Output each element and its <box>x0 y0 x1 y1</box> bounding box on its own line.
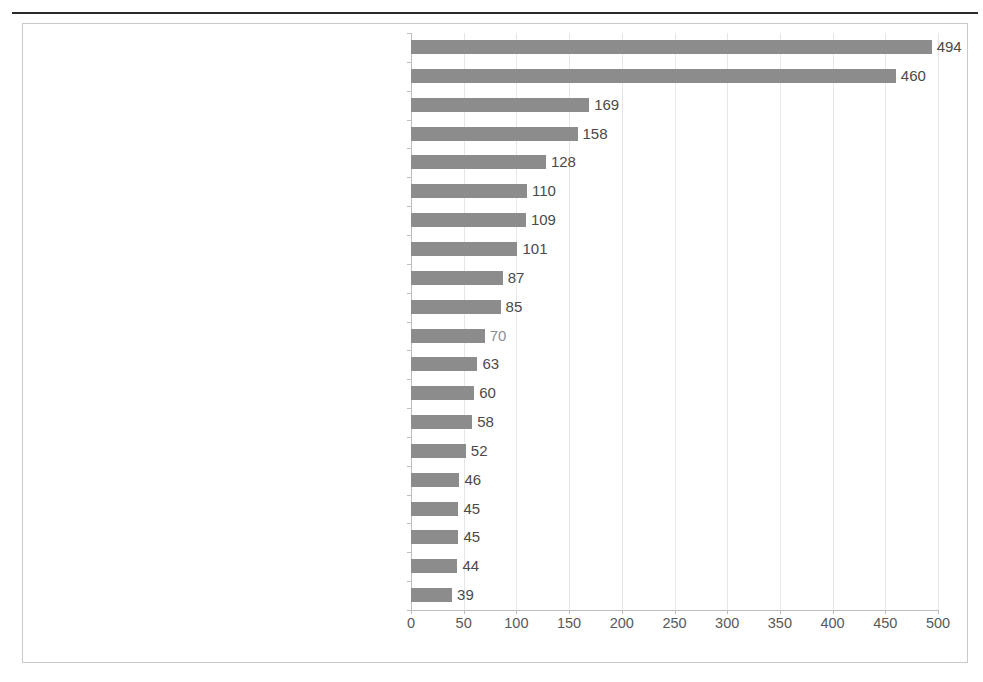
bar-row: International Journal of Production Econ… <box>411 91 938 120</box>
bar-value-label: 128 <box>546 148 576 177</box>
x-tick-label: 300 <box>715 615 739 631</box>
bar[interactable] <box>411 415 472 429</box>
y-tick-mark <box>407 350 411 351</box>
x-tick-mark-300 <box>727 610 728 614</box>
bar-value-label: 87 <box>503 264 525 293</box>
x-tick-label: 0 <box>407 615 415 631</box>
bar-value-label: 60 <box>474 379 496 408</box>
bar-row: Information Sciences63 <box>411 350 938 379</box>
bar-value-label: 45 <box>458 523 480 552</box>
bar-row: Applied Mathematics and Computation45 <box>411 523 938 552</box>
bar[interactable] <box>411 271 503 285</box>
y-tick-mark <box>407 408 411 409</box>
chart-frame: European Journal of Operational Research… <box>22 23 968 663</box>
bar-row: Omega109 <box>411 206 938 235</box>
x-tick-label: 400 <box>820 615 844 631</box>
bar[interactable] <box>411 530 458 544</box>
bar[interactable] <box>411 98 589 112</box>
y-tick-mark <box>407 552 411 553</box>
y-tick-mark <box>407 379 411 380</box>
bar[interactable] <box>411 155 546 169</box>
bar-row: Value in Health60 <box>411 379 938 408</box>
y-tick-mark <box>407 581 411 582</box>
bar-value-label: 39 <box>452 581 474 610</box>
bar-row: Energy Policy58 <box>411 408 938 437</box>
y-tick-mark <box>407 610 411 611</box>
bar-value-label: 70 <box>485 322 507 351</box>
y-tick-mark <box>407 33 411 34</box>
y-tick-mark <box>407 293 411 294</box>
bar-value-label: 101 <box>517 235 547 264</box>
bar-row: Computers & Industrial Engineering158 <box>411 120 938 149</box>
top-horizontal-rule <box>12 12 978 14</box>
bar-row: Applied Soft Computing44 <box>411 552 938 581</box>
y-tick-mark <box>407 322 411 323</box>
bar-row: European Journal of Operational Research… <box>411 33 938 62</box>
x-tick-label: 450 <box>873 615 897 631</box>
bar-row: Expert Systems with Applications460 <box>411 62 938 91</box>
bar-value-label: 110 <box>527 177 556 206</box>
y-tick-mark <box>407 495 411 496</box>
x-tick-mark-100 <box>516 610 517 614</box>
x-tick-mark-450 <box>885 610 886 614</box>
x-tick-label: 200 <box>610 615 634 631</box>
bar[interactable] <box>411 300 501 314</box>
bar[interactable] <box>411 40 932 54</box>
x-tick-mark-250 <box>675 610 676 614</box>
x-tick-mark-200 <box>622 610 623 614</box>
y-tick-mark <box>407 91 411 92</box>
bar[interactable] <box>411 357 477 371</box>
x-tick-mark-150 <box>569 610 570 614</box>
x-tick-label: 500 <box>926 615 950 631</box>
bar[interactable] <box>411 69 896 83</box>
y-tick-mark <box>407 235 411 236</box>
bar[interactable] <box>411 184 527 198</box>
chart-inner: European Journal of Operational Research… <box>23 24 967 662</box>
x-tick-mark-400 <box>833 610 834 614</box>
y-tick-mark <box>407 466 411 467</box>
x-tick-label: 250 <box>662 615 686 631</box>
bar[interactable] <box>411 386 474 400</box>
bar-value-label: 169 <box>589 91 619 120</box>
x-tick-mark-350 <box>780 610 781 614</box>
bar-row: Fuzzy Sets and Systems85 <box>411 293 938 322</box>
bar-row: Socio-Economic Planning Sciences70 <box>411 322 938 351</box>
plot-area: European Journal of Operational Research… <box>411 33 938 610</box>
x-tick-label: 150 <box>557 615 581 631</box>
bar[interactable] <box>411 329 485 343</box>
bar[interactable] <box>411 127 578 141</box>
bar-row: Environmental Modelling & Software45 <box>411 495 938 524</box>
bar-row: Reliability Engineering & System Safety4… <box>411 466 938 495</box>
y-tick-mark <box>407 437 411 438</box>
y-tick-mark <box>407 148 411 149</box>
bar-row: Mathematical and Computer Modelling128 <box>411 148 938 177</box>
y-tick-mark <box>407 206 411 207</box>
bar-value-label: 63 <box>477 350 499 379</box>
bar-value-label: 460 <box>896 62 926 91</box>
bar[interactable] <box>411 588 452 602</box>
bar[interactable] <box>411 242 517 256</box>
bar-row: Journal of Environmental Management87 <box>411 264 938 293</box>
bar-row: Decision Support Systems101 <box>411 235 938 264</box>
x-tick-mark-50 <box>464 610 465 614</box>
bar-value-label: 158 <box>578 120 608 149</box>
bar-value-label: 46 <box>459 466 481 495</box>
bar-value-label: 58 <box>472 408 494 437</box>
bar-row: International Journal of Project Managem… <box>411 437 938 466</box>
bar-value-label: 44 <box>457 552 479 581</box>
bar-row: Computers & Operations Research110 <box>411 177 938 206</box>
bar-row: Fuel and Energy Abstracts39 <box>411 581 938 610</box>
bar-value-label: 494 <box>932 33 962 62</box>
bar[interactable] <box>411 473 459 487</box>
bar-value-label: 52 <box>466 437 488 466</box>
bar[interactable] <box>411 444 466 458</box>
bar-value-label: 45 <box>458 495 480 524</box>
y-tick-mark <box>407 264 411 265</box>
bar[interactable] <box>411 213 526 227</box>
bar[interactable] <box>411 502 458 516</box>
bar[interactable] <box>411 559 457 573</box>
y-tick-mark <box>407 62 411 63</box>
x-tick-mark-0 <box>411 610 412 614</box>
x-tick-label: 100 <box>504 615 528 631</box>
bar-value-label: 109 <box>526 206 556 235</box>
